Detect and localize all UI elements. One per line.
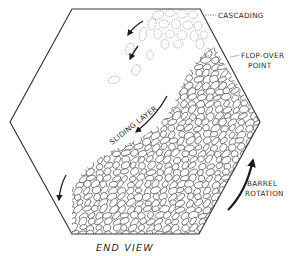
particle-bed — [56, 36, 272, 241]
flop-over-label-line1: FLOP-OVER — [241, 51, 284, 60]
flop-over-leader-line — [230, 55, 240, 57]
flop-over-label-line2: POINT — [248, 61, 272, 70]
cascading-arrow-2-icon — [130, 46, 138, 59]
barrel-rotation-label-line1: BARREL — [247, 179, 277, 188]
bottom-flow-arrow-icon — [59, 175, 66, 200]
end-view-title: END VIEW — [96, 242, 154, 253]
cascading-arrow-icon — [128, 21, 143, 35]
cascading-label: CASCADING — [218, 11, 264, 20]
barrel-rotation-label-line2: ROTATION — [245, 189, 284, 198]
barrel-end-view-diagram: CASCADING FLOP-OVER POINT SLIDING LAYER … — [0, 0, 294, 256]
